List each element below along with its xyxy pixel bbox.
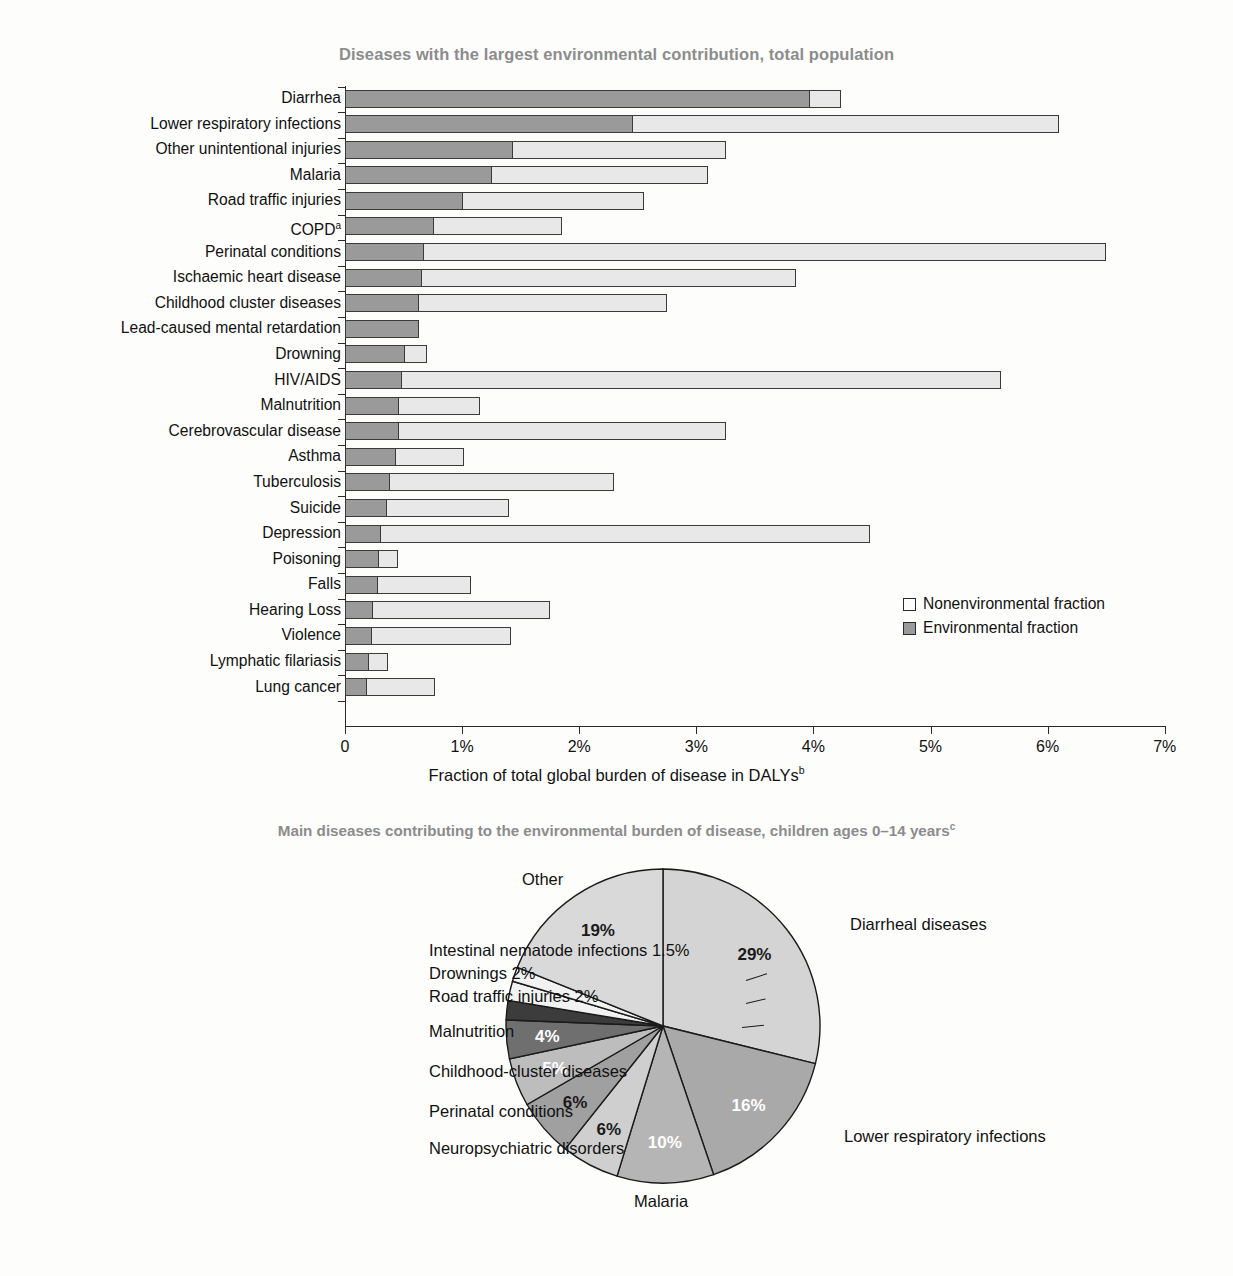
bar-row: Other unintentional injuries	[0, 137, 1233, 163]
value-axis-tick-label: 0	[341, 738, 350, 756]
bar-segment-environmental	[345, 653, 368, 671]
bar-category-label: Cerebrovascular disease	[1, 421, 341, 441]
bar-track	[345, 90, 841, 108]
bar-segment-nonenvironmental	[462, 192, 644, 210]
bar-row: Drowning	[0, 342, 1233, 368]
legend-swatch-environmental-icon	[903, 622, 916, 635]
bar-segment-nonenvironmental	[404, 345, 427, 363]
bar-row: Childhood cluster diseases	[0, 291, 1233, 317]
bar-category-label: Drowning	[1, 344, 341, 364]
x-axis-label-text: Fraction of total global burden of disea…	[428, 766, 798, 784]
bar-segment-nonenvironmental	[395, 448, 464, 466]
bar-category-label: Lung cancer	[1, 677, 341, 697]
bar-segment-environmental	[345, 601, 372, 619]
value-axis-tick-label: 6%	[1036, 738, 1059, 756]
bar-category-label: Perinatal conditions	[1, 242, 341, 262]
pie-title-text: Main diseases contributing to the enviro…	[278, 822, 950, 839]
bar-row: Asthma	[0, 444, 1233, 470]
category-axis-tick	[338, 138, 346, 139]
bar-track	[345, 320, 419, 338]
bar-track	[345, 627, 511, 645]
bar-category-label: COPDa	[1, 216, 341, 240]
category-axis-tick	[338, 419, 346, 420]
value-axis-tick-label: 5%	[919, 738, 942, 756]
bar-row: Perinatal conditions	[0, 240, 1233, 266]
value-axis-tick-label: 4%	[802, 738, 825, 756]
bar-segment-nonenvironmental	[418, 294, 667, 312]
bar-track	[345, 499, 509, 517]
bar-row: Lower respiratory infections	[0, 112, 1233, 138]
value-axis-tick	[931, 726, 932, 734]
bar-row: Depression	[0, 521, 1233, 547]
bar-category-label: Childhood cluster diseases	[1, 293, 341, 313]
bar-category-label: Malnutrition	[1, 395, 341, 415]
bar-track	[345, 473, 614, 491]
category-axis-tick	[338, 624, 346, 625]
bar-segment-nonenvironmental	[368, 653, 388, 671]
bar-segment-environmental	[345, 576, 377, 594]
bar-track	[345, 345, 427, 363]
category-axis-tick	[338, 394, 346, 395]
bar-row: Suicide	[0, 496, 1233, 522]
value-axis-tick	[1048, 726, 1049, 734]
value-axis-tick-label: 1%	[451, 738, 474, 756]
bar-row: Road traffic injuries	[0, 188, 1233, 214]
value-axis-tick	[813, 726, 814, 734]
bar-track	[345, 294, 667, 312]
category-axis-tick	[338, 522, 346, 523]
bar-segment-environmental	[345, 345, 404, 363]
bar-segment-nonenvironmental	[401, 371, 1001, 389]
category-axis-tick	[338, 189, 346, 190]
x-axis-label-superscript: b	[799, 764, 805, 776]
bar-category-label: Other unintentional injuries	[1, 139, 341, 159]
bar-row: HIV/AIDS	[0, 368, 1233, 394]
bar-segment-environmental	[345, 320, 419, 338]
bar-chart-title: Diseases with the largest environmental …	[0, 45, 1233, 64]
value-axis-tick	[345, 726, 346, 734]
category-axis-tick	[338, 573, 346, 574]
bar-category-label: Diarrhea	[1, 88, 341, 108]
pie-slice-label: Diarrheal diseases	[850, 915, 987, 934]
pie-slice-value-label: 16%	[732, 1096, 766, 1115]
pie-chart-area: 29%16%10%6%6%5%4%19% Diarrheal diseasesL…	[504, 867, 822, 1185]
bar-track	[345, 550, 398, 568]
bar-category-label: Suicide	[1, 498, 341, 518]
bar-segment-nonenvironmental	[398, 397, 480, 415]
bar-category-label: Falls	[1, 574, 341, 594]
bar-track	[345, 166, 708, 184]
bar-track	[345, 601, 550, 619]
bar-chart-x-axis-label: Fraction of total global burden of disea…	[0, 764, 1233, 785]
category-axis-tick	[338, 701, 346, 702]
bar-segment-nonenvironmental	[423, 243, 1106, 261]
bar-segment-environmental	[345, 678, 366, 696]
bar-track	[345, 141, 726, 159]
bar-category-label: Road traffic injuries	[1, 190, 341, 210]
legend-label-environmental: Environmental fraction	[923, 619, 1078, 637]
bar-segment-nonenvironmental	[512, 141, 725, 159]
bar-row: Lymphatic filariasis	[0, 649, 1233, 675]
legend-label-nonenvironmental: Nonenvironmental fraction	[923, 595, 1105, 613]
bar-segment-nonenvironmental	[398, 422, 726, 440]
bar-track	[345, 115, 1059, 133]
bar-row: Malaria	[0, 163, 1233, 189]
bar-track	[345, 678, 435, 696]
category-axis-tick	[338, 266, 346, 267]
bar-segment-nonenvironmental	[377, 576, 472, 594]
bar-category-label: Poisoning	[1, 549, 341, 569]
value-axis-tick-label: 3%	[685, 738, 708, 756]
bar-track	[345, 371, 1001, 389]
bar-track	[345, 422, 726, 440]
bar-track	[345, 192, 644, 210]
pie-slice-label: Lower respiratory infections	[844, 1127, 1046, 1146]
category-axis-tick	[338, 87, 346, 88]
value-axis-tick	[579, 726, 580, 734]
bar-segment-environmental	[345, 422, 398, 440]
category-axis-tick	[338, 112, 346, 113]
category-axis-tick	[338, 675, 346, 676]
bar-segment-nonenvironmental	[491, 166, 708, 184]
category-axis-tick	[338, 599, 346, 600]
bar-segment-environmental	[345, 448, 395, 466]
bar-segment-environmental	[345, 499, 386, 517]
category-axis-tick	[338, 291, 346, 292]
pie-slice-value-label: 10%	[648, 1133, 682, 1152]
